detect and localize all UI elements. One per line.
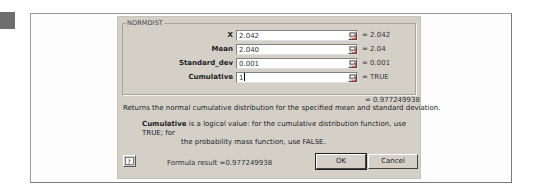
argument-help-line2: the probability mass function, use FALSE… xyxy=(142,138,412,147)
ok-button[interactable]: OK xyxy=(316,154,366,169)
evaluated-value: = 0.001 xyxy=(362,59,390,67)
argument-help-name: Cumulative xyxy=(142,120,187,128)
cumulative-input[interactable]: 1 xyxy=(236,72,358,83)
argument-label: Mean xyxy=(212,45,233,53)
standard-dev-input[interactable]: 0.001 xyxy=(236,58,358,69)
gray-block xyxy=(0,12,15,29)
argument-label: Cumulative xyxy=(188,73,233,81)
cancel-button[interactable]: Cancel xyxy=(368,154,418,169)
help-icon[interactable]: ? xyxy=(123,155,136,167)
argument-label: Standard_dev xyxy=(179,59,233,67)
argument-row-cumulative: Cumulative 1 = TRUE xyxy=(123,72,415,84)
function-arguments-dialog: NORMDIST X 2.042 = 2.042 Mean 2.040 = 2.… xyxy=(117,16,421,179)
argument-row-standard-dev: Standard_dev 0.001 = 0.001 xyxy=(123,58,415,70)
svg-text:?: ? xyxy=(128,158,131,165)
argument-row-mean: Mean 2.040 = 2.04 xyxy=(123,44,415,56)
formula-result: Formula result =0.977249938 xyxy=(167,159,272,167)
collapse-dialog-icon[interactable] xyxy=(348,45,357,54)
evaluated-value: = 2.042 xyxy=(362,31,390,39)
arguments-group: NORMDIST X 2.042 = 2.042 Mean 2.040 = 2.… xyxy=(122,23,416,95)
x-input[interactable]: 2.042 xyxy=(236,30,358,41)
function-name: NORMDIST xyxy=(126,19,164,27)
evaluated-value: = TRUE xyxy=(362,73,389,81)
argument-label: X xyxy=(228,31,233,39)
mean-input[interactable]: 2.040 xyxy=(236,44,358,55)
argument-help: Cumulative is a logical value: for the c… xyxy=(142,120,412,147)
collapse-dialog-icon[interactable] xyxy=(348,59,357,68)
argument-row-x: X 2.042 = 2.042 xyxy=(123,30,415,42)
text-caret xyxy=(244,73,245,81)
evaluated-value: = 2.04 xyxy=(362,45,386,53)
collapse-dialog-icon[interactable] xyxy=(348,73,357,82)
function-description: Returns the normal cumulative distributi… xyxy=(123,104,440,112)
function-result: = 0.977249938 xyxy=(365,96,420,104)
collapse-dialog-icon[interactable] xyxy=(348,31,357,40)
